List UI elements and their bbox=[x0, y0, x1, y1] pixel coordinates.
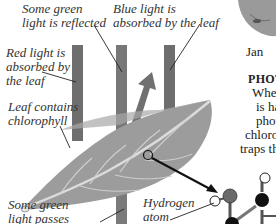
label-line: Blue light is bbox=[113, 2, 219, 16]
label-line: Some green bbox=[22, 2, 106, 16]
leaf-light-diagram: Some green light is reflected Blue light… bbox=[0, 0, 276, 224]
label-green-reflected: Some green light is reflected bbox=[22, 2, 106, 30]
label-green-passes: Some green light passes bbox=[8, 198, 69, 224]
molecule-icon bbox=[210, 173, 276, 224]
label-line: Leaf contains bbox=[8, 100, 78, 114]
body-line-5: traps th bbox=[240, 141, 276, 156]
label-line: absorbed by bbox=[6, 60, 70, 74]
body-line-1: When bbox=[252, 85, 276, 100]
hydrogen-atom-icon bbox=[210, 196, 220, 206]
hydrogen-atom-icon-2 bbox=[260, 173, 270, 183]
label-line: light is reflected bbox=[22, 16, 106, 30]
label-line: absorbed by the leaf bbox=[113, 16, 219, 30]
label-line: chlorophyll bbox=[8, 114, 78, 128]
label-chlorophyll: Leaf contains chlorophyll bbox=[8, 100, 78, 128]
body-line-4: chloro bbox=[245, 127, 276, 142]
label-line: atom bbox=[143, 210, 195, 224]
body-line-3: photo bbox=[256, 113, 276, 128]
label-line: light passes bbox=[8, 212, 69, 224]
oxygen-atom-icon bbox=[223, 189, 237, 203]
label-hydrogen-atom: Hydrogen atom bbox=[143, 196, 195, 224]
label-line: Some green bbox=[8, 198, 69, 212]
label-line: Red light is bbox=[6, 46, 70, 60]
body-line-2: is ha bbox=[256, 99, 276, 114]
label-blue-absorbed: Blue light is absorbed by the leaf bbox=[113, 2, 219, 30]
corner-photo bbox=[238, 0, 276, 36]
label-line: the leaf bbox=[6, 74, 70, 88]
photo-caption: Jan bbox=[246, 44, 263, 59]
carbon-atom-icon bbox=[255, 193, 269, 207]
label-red-absorbed: Red light is absorbed by the leaf bbox=[6, 46, 70, 88]
label-line: Hydrogen bbox=[143, 196, 195, 210]
